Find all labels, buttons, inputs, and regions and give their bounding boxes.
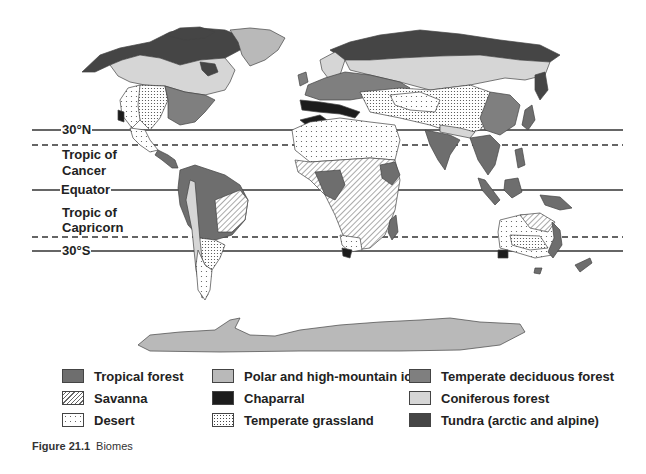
- new-guinea: [540, 195, 572, 210]
- legend-label: Desert: [94, 413, 134, 428]
- central-america: [155, 150, 178, 168]
- lat-label-tropic-capricorn-line1: Tropic of: [61, 205, 118, 220]
- legend-item-chaparral: Chaparral: [212, 389, 305, 407]
- oceania: [478, 148, 592, 274]
- legend: Tropical forest Savanna Desert Polar and…: [62, 367, 642, 447]
- figure-title: Biomes: [96, 440, 133, 452]
- temperate-deciduous-swatch: [409, 369, 431, 383]
- kamchatka: [535, 72, 548, 100]
- polar-ice-swatch: [212, 369, 234, 383]
- japan: [522, 105, 535, 130]
- lat-label-tropic-cancer-line1: Tropic of: [61, 147, 118, 162]
- antarctica-ice: [138, 318, 525, 352]
- legend-label: Temperate grassland: [244, 413, 374, 428]
- legend-item-savanna: Savanna: [62, 389, 147, 407]
- legend-item-temperate-grassland: Temperate grassland: [212, 411, 374, 429]
- legend-item-desert: Desert: [62, 411, 134, 429]
- legend-label: Temperate deciduous forest: [441, 369, 614, 384]
- mexico: [130, 128, 158, 152]
- mediterranean-chaparral: [300, 100, 360, 118]
- lat-label-30s: 30°S: [61, 243, 91, 258]
- tropical-forest-swatch: [62, 369, 84, 383]
- legend-label: Tundra (arctic and alpine): [441, 413, 599, 428]
- australia-chaparral: [498, 250, 508, 258]
- tasmania: [534, 268, 542, 274]
- chaparral-swatch: [212, 391, 234, 405]
- lat-label-tropic-capricorn-line2: Capricorn: [61, 220, 124, 235]
- legend-item-tropical-forest: Tropical forest: [62, 367, 184, 385]
- legend-item-coniferous: Coniferous forest: [409, 389, 549, 407]
- borneo: [504, 178, 522, 198]
- india-tropical: [425, 130, 460, 170]
- lat-label-equator: Equator: [60, 182, 111, 197]
- legend-label: Polar and high-mountain ice: [244, 369, 419, 384]
- legend-label: Chaparral: [244, 391, 305, 406]
- se-asia-tropical: [470, 135, 500, 175]
- sahara-desert: [292, 118, 400, 162]
- legend-item-temperate-deciduous: Temperate deciduous forest: [409, 367, 614, 385]
- philippines: [515, 148, 525, 168]
- uk: [298, 72, 308, 86]
- lat-label-30n: 30°N: [61, 122, 92, 137]
- legend-item-polar-ice: Polar and high-mountain ice: [212, 367, 419, 385]
- savanna-swatch: [62, 391, 84, 405]
- sumatra: [478, 178, 500, 205]
- figure-number: Figure 21.1: [32, 440, 90, 452]
- desert-swatch: [62, 413, 84, 427]
- lat-label-tropic-cancer-line2: Cancer: [61, 163, 107, 178]
- na-grassland: [135, 85, 168, 130]
- na-chaparral: [118, 110, 124, 122]
- south-america: [178, 165, 248, 300]
- figure-caption: Figure 21.1Biomes: [32, 440, 133, 452]
- coniferous-swatch: [409, 391, 431, 405]
- legend-label: Tropical forest: [94, 369, 184, 384]
- tundra-swatch: [409, 413, 431, 427]
- legend-label: Coniferous forest: [441, 391, 549, 406]
- temperate-grassland-swatch: [212, 413, 234, 427]
- africa-south-chaparral: [342, 248, 352, 258]
- legend-label: Savanna: [94, 391, 147, 406]
- new-zealand: [575, 258, 592, 272]
- legend-item-tundra: Tundra (arctic and alpine): [409, 411, 599, 429]
